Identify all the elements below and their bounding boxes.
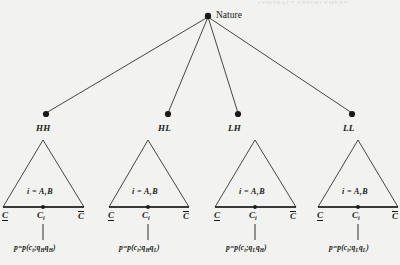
edge-nature-to-LL <box>208 17 352 113</box>
formula-LH-sub2: L <box>252 247 255 253</box>
midpoint-c-HH-sub: i <box>43 215 45 221</box>
edge-nature-to-HL <box>168 17 208 113</box>
formula-LH-sub1: i <box>244 247 246 253</box>
node-label-HL: HL <box>158 124 171 133</box>
node-label-LL: LL <box>343 124 355 133</box>
base-midpoint-dots <box>41 205 360 209</box>
node-label-HH: HH <box>36 124 51 133</box>
node-HH <box>43 111 49 117</box>
formula-HL-sub2: H <box>145 247 149 253</box>
formula-HL-suffix: ) <box>157 243 160 252</box>
midpoint-c-HH: Ci <box>37 211 45 220</box>
game-tree-figure <box>0 0 400 265</box>
lower-bound-c-LH: C <box>214 211 220 221</box>
upper-bound-c-LL-glyph: C <box>392 211 398 221</box>
node-label-LH: LH <box>228 124 241 133</box>
probability-formula-HL: p=p(ci;qHqL) <box>119 244 160 252</box>
branch-nodes <box>43 111 355 117</box>
midpoint-dot-LL <box>356 205 360 209</box>
edge-nature-to-HH <box>46 17 208 113</box>
upper-bound-c-LH-glyph: C <box>290 211 296 221</box>
formula-HL-sub3: L <box>154 247 157 253</box>
formula-HH-suffix: ) <box>53 243 56 252</box>
upper-bound-c-LH: C <box>290 211 296 221</box>
formula-LH-sub3: H <box>260 247 264 253</box>
formula-LH-prefix: p=p(c <box>226 243 244 252</box>
formula-LL-sub1: i <box>347 247 349 253</box>
formula-LH-suffix: ) <box>264 243 267 252</box>
formula-LL-sub2: L <box>355 247 358 253</box>
probability-formula-HH: p=p(ci;qHqH) <box>14 244 56 252</box>
node-HL <box>165 111 171 117</box>
formula-HL-sub1: i <box>137 247 139 253</box>
triangle-HL <box>109 140 189 207</box>
node-LL <box>349 111 355 117</box>
information-set-triangles <box>3 140 398 207</box>
formula-HH-sub1: i <box>32 247 34 253</box>
probability-formula-LL: p=p(ci;qLqL) <box>329 244 369 252</box>
formula-HL-prefix: p=p(c <box>119 243 137 252</box>
lower-bound-c-HH-glyph: C <box>2 211 8 221</box>
node-LH <box>235 111 241 117</box>
formula-stems <box>43 224 358 240</box>
formula-HH-sub2: H <box>40 247 44 253</box>
midpoint-c-LH: Ci <box>249 211 257 220</box>
lower-bound-c-HH: C <box>2 211 8 221</box>
lower-bound-c-LL-glyph: C <box>317 211 323 221</box>
midpoint-c-HL: Ci <box>142 211 150 220</box>
info-set-label-LL: i = A,B <box>342 188 368 196</box>
edge-nature-to-LH <box>208 17 238 113</box>
midpoint-dot-HH <box>41 205 45 209</box>
formula-HH-prefix: p=p(c <box>14 243 32 252</box>
formula-HH-sub3: H <box>49 247 53 253</box>
formula-LL-suffix: ) <box>366 243 369 252</box>
lower-bound-c-HL-glyph: C <box>108 211 114 221</box>
midpoint-c-HL-sub: i <box>148 215 150 221</box>
midpoint-c-LL: Ci <box>352 211 360 220</box>
nature-node <box>205 13 211 19</box>
upper-bound-c-HH-glyph: C <box>78 211 84 221</box>
midpoint-dot-HL <box>146 205 150 209</box>
upper-bound-c-HH: C <box>78 211 84 221</box>
nature-branch-edges <box>46 17 352 113</box>
formula-LL-prefix: p=p(c <box>329 243 347 252</box>
lower-bound-c-LL: C <box>317 211 323 221</box>
upper-bound-c-HL-glyph: C <box>183 211 189 221</box>
triangle-LH <box>215 140 296 207</box>
triangle-HH <box>3 140 84 207</box>
upper-bound-c-LL: C <box>392 211 398 221</box>
midpoint-c-LL-sub: i <box>358 215 360 221</box>
info-set-label-HL: i = A,B <box>132 188 158 196</box>
info-set-label-LH: i = A,B <box>239 188 265 196</box>
midpoint-dot-LH <box>253 205 257 209</box>
upper-bound-c-HL: C <box>183 211 189 221</box>
formula-LL-sub3: L <box>363 247 366 253</box>
midpoint-c-LH-sub: i <box>255 215 257 221</box>
probability-formula-LH: p=p(ci;qLqH) <box>226 244 267 252</box>
info-set-label-HH: i = A,B <box>27 188 53 196</box>
triangle-LL <box>318 140 398 207</box>
lower-bound-c-HL: C <box>108 211 114 221</box>
nature-label: Nature <box>216 11 242 21</box>
lower-bound-c-LH-glyph: C <box>214 211 220 221</box>
